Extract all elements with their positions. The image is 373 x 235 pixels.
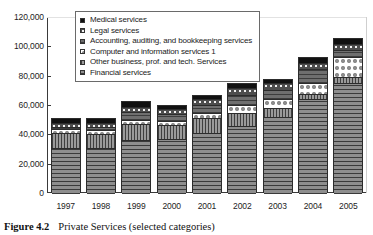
- bar-segment[interactable]: [228, 105, 256, 112]
- x-tick-label: 1998: [86, 201, 116, 211]
- bar-segment[interactable]: [158, 125, 186, 139]
- chart-legend: Medical services Legal services Accounti…: [75, 11, 260, 82]
- bar-segment[interactable]: [264, 83, 292, 90]
- y-tick-label: 60,000: [19, 100, 44, 110]
- x-tick-label: 2001: [192, 201, 222, 211]
- bar-column: [263, 17, 293, 193]
- bar-segment[interactable]: [299, 69, 327, 83]
- y-tick-label: 20,000: [19, 159, 44, 169]
- bar-segment[interactable]: [87, 134, 115, 148]
- stacked-bar[interactable]: [333, 38, 363, 193]
- bar-segment[interactable]: [228, 126, 256, 194]
- bar-segment[interactable]: [158, 114, 186, 121]
- legend-swatch-other-business-icon: [80, 60, 85, 65]
- legend-swatch-computer-icon: [80, 49, 85, 54]
- legend-label: Financial services: [90, 68, 151, 79]
- bar-column: [333, 17, 363, 193]
- bar-segment[interactable]: [264, 90, 292, 100]
- bar-segment[interactable]: [264, 99, 292, 108]
- figure-caption: Figure 4.2 Private Services (selected ca…: [4, 221, 215, 232]
- bar-column: [298, 17, 328, 193]
- legend-label: Accounting, auditing, and bookkeeping se…: [90, 36, 252, 47]
- legend-swatch-medical-icon: [80, 18, 85, 23]
- legend-item[interactable]: Financial services: [80, 68, 252, 79]
- x-tick-label: 2000: [157, 201, 187, 211]
- bar-segment[interactable]: [52, 133, 80, 148]
- plot-frame-right: [366, 17, 367, 193]
- stacked-bar[interactable]: [121, 101, 151, 193]
- x-tick-label: 1997: [51, 201, 81, 211]
- stacked-bar[interactable]: [157, 105, 187, 193]
- legend-label: Computer and information services 1: [90, 47, 215, 58]
- figure-number: Figure 4.2: [4, 221, 49, 232]
- bar-segment[interactable]: [122, 140, 150, 194]
- stacked-bar[interactable]: [192, 95, 222, 193]
- bar-segment[interactable]: [193, 133, 221, 194]
- bar-segment[interactable]: [193, 105, 221, 113]
- stacked-bar[interactable]: [298, 57, 328, 193]
- bar-segment[interactable]: [228, 88, 256, 95]
- bar-segment[interactable]: [228, 113, 256, 126]
- bar-segment[interactable]: [87, 148, 115, 194]
- bar-segment[interactable]: [299, 83, 327, 94]
- stacked-bar[interactable]: [51, 118, 81, 193]
- legend-label: Other business, prof. and tech. Services: [90, 57, 226, 68]
- bar-segment[interactable]: [193, 118, 221, 133]
- figure-container: 120,000 100,000 80,000 60,000 40,000 20,…: [0, 0, 373, 235]
- bar-segment[interactable]: [299, 99, 327, 194]
- bar-segment[interactable]: [52, 148, 80, 194]
- y-tick-label: 40,000: [19, 129, 44, 139]
- bar-segment[interactable]: [158, 139, 186, 194]
- y-axis-labels: 120,000 100,000 80,000 60,000 40,000 20,…: [0, 0, 44, 235]
- x-tick-label: 2003: [263, 201, 293, 211]
- legend-label: Legal services: [90, 26, 139, 37]
- stacked-bar[interactable]: [227, 83, 257, 193]
- legend-label: Medical services: [90, 15, 147, 26]
- legend-item[interactable]: Computer and information services 1: [80, 47, 252, 58]
- x-tick-label: 2004: [298, 201, 328, 211]
- legend-item[interactable]: Legal services: [80, 26, 252, 37]
- bar-segment[interactable]: [122, 124, 150, 139]
- bar-segment[interactable]: [334, 57, 362, 78]
- bar-segment[interactable]: [122, 112, 150, 120]
- figure-title: Private Services (selected categories): [58, 221, 215, 232]
- stacked-bar[interactable]: [263, 79, 293, 193]
- legend-item[interactable]: Accounting, auditing, and bookkeeping se…: [80, 36, 252, 47]
- bar-segment[interactable]: [334, 83, 362, 194]
- bar-segment[interactable]: [228, 95, 256, 105]
- bar-segment[interactable]: [334, 50, 362, 57]
- y-tick-label: 100,000: [14, 41, 44, 51]
- x-tick-label: 2002: [227, 201, 257, 211]
- bar-segment[interactable]: [264, 117, 292, 194]
- y-tick-label: 120,000: [14, 12, 44, 22]
- stacked-bar[interactable]: [86, 118, 116, 193]
- y-tick-label: 80,000: [19, 71, 44, 81]
- legend-item[interactable]: Other business, prof. and tech. Services: [80, 57, 252, 68]
- x-axis-labels: 199719981999200020012002200320042005: [48, 201, 366, 211]
- legend-swatch-legal-icon: [80, 28, 85, 33]
- x-tick-label: 2005: [333, 201, 363, 211]
- legend-swatch-accounting-icon: [80, 39, 85, 44]
- legend-swatch-financial-icon: [80, 70, 85, 75]
- bar-segment[interactable]: [264, 108, 292, 117]
- legend-item[interactable]: Medical services: [80, 15, 252, 26]
- x-tick-label: 1999: [121, 201, 151, 211]
- y-tick-label: 0: [39, 188, 44, 198]
